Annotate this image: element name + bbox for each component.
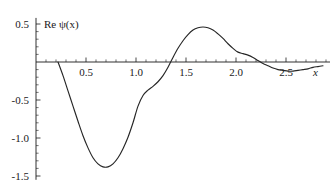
chart-plot: 0.51.01.52.02.5 0.5-0.5-1.0-1.5 Re ψ(x) … — [0, 0, 330, 195]
x-tick-label: 2.0 — [229, 66, 243, 78]
y-tick-label: 0.5 — [15, 18, 29, 30]
figure-container: 0.51.01.52.02.5 0.5-0.5-1.0-1.5 Re ψ(x) … — [0, 0, 330, 195]
x-tick-label: 2.5 — [279, 66, 293, 78]
x-tick-label: 1.5 — [179, 66, 193, 78]
y-tick-label: -1.5 — [12, 170, 30, 182]
x-tick-label: 1.0 — [129, 66, 143, 78]
series-line — [58, 27, 323, 167]
x-axis-tick-labels: 0.51.01.52.02.5 — [79, 66, 293, 78]
data-series-curve — [58, 27, 323, 167]
x-axis-title: x — [312, 66, 318, 78]
x-axis-ticks — [46, 58, 326, 63]
x-tick-label: 0.5 — [79, 66, 93, 78]
y-axis-tick-labels: 0.5-0.5-1.0-1.5 — [12, 18, 30, 182]
y-tick-label: -0.5 — [12, 94, 30, 106]
y-axis-title: Re ψ(x) — [44, 18, 79, 31]
y-axis-ticks — [36, 24, 41, 176]
y-tick-label: -1.0 — [12, 132, 30, 144]
